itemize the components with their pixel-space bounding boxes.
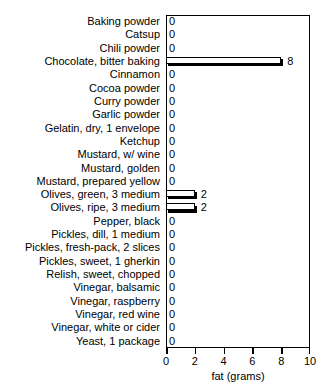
x-axis-title: fat (grams)	[166, 369, 310, 383]
category-axis-labels: Baking powderCatsupChili powderChocolate…	[0, 15, 163, 348]
category-label: Pepper, black	[93, 215, 160, 229]
category-label: Cinnamon	[110, 68, 160, 82]
category-label: Pickles, dill, 1 medium	[51, 228, 160, 242]
category-label: Garlic powder	[92, 108, 160, 122]
category-label: Chocolate, bitter baking	[44, 55, 160, 69]
category-label: Vinegar, balsamic	[73, 281, 160, 295]
plot-area	[166, 15, 310, 348]
category-label: Curry powder	[94, 95, 160, 109]
category-label: Vinegar, raspberry	[70, 295, 160, 309]
x-tick-label: 4	[212, 354, 236, 368]
category-label: Mustard, w/ wine	[77, 148, 160, 162]
category-label: Gelatin, dry, 1 envelope	[45, 122, 160, 136]
category-label: Vinegar, red wine	[75, 308, 160, 322]
category-label: Mustard, prepared yellow	[36, 175, 160, 189]
category-label: Olives, ripe, 3 medium	[51, 201, 160, 215]
x-axis-tick-labels: 0246810	[166, 354, 310, 368]
category-label: Chili powder	[99, 42, 160, 56]
category-label: Pickles, fresh-pack, 2 slices	[25, 241, 160, 255]
chart-title: MISCELLANEOUS FOODS	[0, 0, 320, 3]
category-label: Mustard, golden	[81, 162, 160, 176]
category-label: Olives, green, 3 medium	[41, 188, 160, 202]
category-label: Ketchup	[120, 135, 160, 149]
category-label: Vinegar, white or cider	[51, 321, 160, 335]
x-tick-label: 2	[183, 354, 207, 368]
category-label: Catsup	[125, 28, 160, 42]
category-label: Cocoa powder	[89, 82, 160, 96]
x-tick-label: 6	[240, 354, 264, 368]
bar-chart: MISCELLANEOUS FOODS Baking powderCatsupC…	[0, 0, 320, 390]
x-tick-label: 10	[298, 354, 320, 368]
category-label: Relish, sweet, chopped	[46, 268, 160, 282]
x-tick-label: 0	[154, 354, 178, 368]
category-label: Yeast, 1 package	[76, 335, 160, 349]
x-tick-label: 8	[269, 354, 293, 368]
category-label: Baking powder	[87, 15, 160, 29]
category-label: Pickles, sweet, 1 gherkin	[39, 255, 160, 269]
